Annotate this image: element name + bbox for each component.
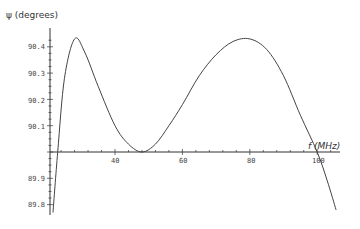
x-ticks	[61, 149, 331, 155]
y-tick-label: 89.9	[28, 175, 45, 183]
y-tick-label: 89.8	[28, 201, 45, 209]
y-tick-label: 90.2	[28, 97, 45, 105]
x-tick-label: 60	[179, 157, 187, 165]
x-tick-label: 40	[111, 157, 119, 165]
x-tick-label: 80	[247, 157, 255, 165]
y-axis-label: ψ (degrees)	[6, 10, 58, 20]
chart: ψ (degrees) f (MHz) 40 60 80 100 90.4 90…	[0, 0, 360, 229]
y-tick-label: 90.1	[28, 123, 45, 131]
x-tick-label: 100	[312, 157, 325, 165]
data-curve	[53, 38, 336, 213]
y-tick-label: 90.4	[28, 43, 45, 51]
y-tick-label: 90.3	[28, 70, 45, 78]
